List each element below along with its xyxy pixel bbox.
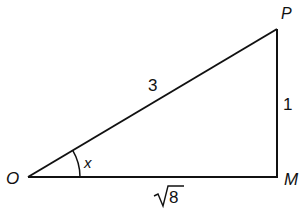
side-label-om: 8	[154, 186, 184, 207]
triangle-diagram: O P M 3 1 8 x	[0, 0, 307, 214]
radicand: 8	[169, 188, 178, 207]
vertex-label-p: P	[281, 5, 292, 22]
angle-x-arc	[73, 150, 80, 177]
side-label-op: 3	[148, 76, 157, 95]
vertex-label-o: O	[6, 169, 19, 188]
angle-label-x: x	[83, 154, 92, 171]
side-op-hypotenuse	[28, 29, 277, 177]
side-label-pm: 1	[283, 95, 292, 114]
vertex-label-m: M	[284, 170, 299, 189]
